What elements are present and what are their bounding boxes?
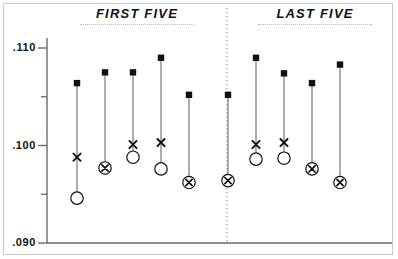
series-2 [99, 69, 111, 174]
square-marker-high [186, 92, 192, 98]
series-7 [250, 55, 262, 166]
series-4 [155, 55, 167, 176]
square-marker-high [158, 55, 164, 61]
square-marker-high [281, 70, 287, 76]
plot-area [0, 0, 398, 259]
chart-root: FIRST FIVE LAST FIVE .110 .100 .090 [0, 0, 398, 259]
series-8 [278, 70, 290, 164]
circle-marker-low [71, 192, 83, 204]
series-5 [183, 92, 195, 189]
circle-marker-low [250, 153, 262, 165]
square-marker-high [225, 92, 231, 98]
square-marker-high [130, 69, 136, 75]
series-6 [222, 92, 234, 187]
square-marker-high [253, 55, 259, 61]
axes-layer [38, 38, 392, 243]
series-layer [71, 55, 346, 205]
circle-marker-low [155, 163, 167, 175]
square-marker-high [309, 80, 315, 86]
circle-marker-low [127, 151, 139, 163]
series-10 [334, 61, 346, 188]
series-9 [306, 80, 318, 175]
circle-marker-low [278, 152, 290, 164]
square-marker-high [337, 61, 343, 67]
square-marker-high [74, 80, 80, 86]
series-3 [127, 69, 139, 163]
square-marker-high [102, 69, 108, 75]
series-1 [71, 80, 83, 204]
